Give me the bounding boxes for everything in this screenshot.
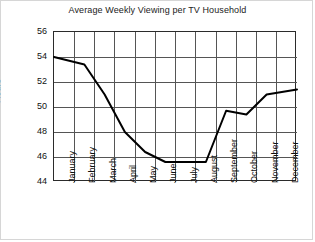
y-axis-tick-44: 44 <box>3 176 47 186</box>
x-axis-tick-november: November <box>270 141 280 183</box>
x-axis-tick-august: August <box>209 155 219 183</box>
x-axis-tick-january: January <box>67 151 77 183</box>
x-axis-tick-december: December <box>290 141 300 183</box>
x-axis-tick-labels: JanuaryFebruaryMarchAprilMayJuneJulyAugu… <box>53 183 296 241</box>
x-axis-tick-may: May <box>148 166 158 183</box>
y-axis-tick-52: 52 <box>3 76 47 86</box>
x-axis-tick-april: April <box>128 165 138 183</box>
x-axis-tick-march: March <box>108 158 118 183</box>
y-axis-tick-48: 48 <box>3 126 47 136</box>
x-axis-tick-july: July <box>189 167 199 183</box>
x-axis-tick-september: September <box>229 139 239 183</box>
y-axis-tick-54: 54 <box>3 51 47 61</box>
x-axis-tick-june: June <box>168 163 178 183</box>
y-axis-tick-50: 50 <box>3 101 47 111</box>
y-axis-tick-56: 56 <box>3 26 47 36</box>
x-axis-tick-february: February <box>87 147 97 183</box>
y-axis-tick-46: 46 <box>3 151 47 161</box>
x-axis-tick-october: October <box>249 151 259 183</box>
y-axis-tick-labels: 56545250484644 <box>1 31 47 181</box>
chart-title: Average Weekly Viewing per TV Household <box>1 5 314 15</box>
chart-frame: Average Weekly Viewing per TV Household … <box>0 0 313 240</box>
